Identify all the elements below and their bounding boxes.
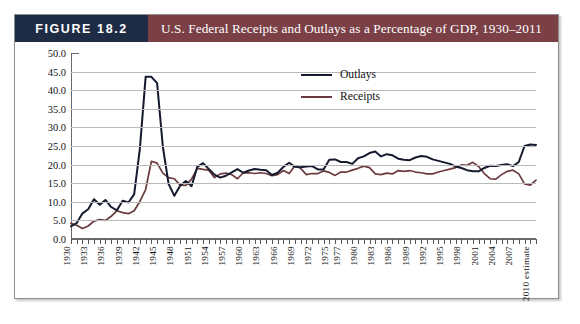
y-axis-label: 50.0	[48, 48, 66, 59]
x-axis-tick	[381, 239, 382, 244]
y-axis-label: 25.0	[48, 141, 66, 152]
x-axis-label: 2004	[487, 246, 497, 266]
x-axis-label: 1998	[452, 246, 462, 266]
figure-container: FIGURE 18.2 U.S. Federal Receipts and Ou…	[14, 14, 559, 299]
x-axis-tick	[421, 239, 422, 244]
x-axis-tick	[358, 239, 359, 244]
x-axis-tick	[134, 239, 135, 244]
x-axis-tick	[255, 239, 256, 244]
x-axis-tick	[410, 239, 411, 244]
x-axis-label: 1969	[286, 246, 296, 266]
x-axis-tick	[467, 239, 468, 244]
x-axis-tick	[370, 239, 371, 244]
x-axis-label: 2001	[470, 246, 480, 266]
x-axis-tick	[375, 239, 376, 244]
x-axis-label: 1948	[165, 246, 175, 266]
x-axis-tick	[237, 239, 238, 244]
x-axis-tick	[283, 239, 284, 244]
x-axis-tick	[507, 239, 508, 244]
y-axis-label: 40.0	[48, 85, 66, 96]
x-axis-tick	[329, 239, 330, 244]
gridline	[71, 220, 536, 221]
x-axis-tick	[146, 239, 147, 244]
y-axis-label: 0.0	[53, 234, 66, 245]
legend-item-outlays: Outlays	[301, 68, 380, 81]
x-axis-label: 1963	[251, 246, 261, 266]
x-axis-tick	[392, 239, 393, 244]
x-axis-label: 1933	[79, 246, 89, 266]
x-axis-tick	[301, 239, 302, 244]
x-axis-tick	[479, 239, 480, 244]
x-axis-label: 1975	[320, 246, 330, 266]
series-line-receipts	[71, 161, 536, 228]
x-axis-tick	[341, 239, 342, 244]
x-axis-tick	[157, 239, 158, 244]
figure-header: FIGURE 18.2 U.S. Federal Receipts and Ou…	[15, 15, 558, 42]
x-axis-tick	[398, 239, 399, 244]
x-axis-tick	[461, 239, 462, 244]
x-axis-tick	[186, 239, 187, 244]
x-axis-label: 1960	[234, 246, 244, 266]
x-axis-tick	[243, 239, 244, 244]
x-axis-tick	[444, 239, 445, 244]
x-axis-tick	[473, 239, 474, 244]
y-axis-label: 15.0	[48, 178, 66, 189]
x-axis-tick	[232, 239, 233, 244]
x-axis-tick	[496, 239, 497, 244]
x-axis-label: 2007	[504, 246, 514, 266]
x-axis-label: 1942	[131, 246, 141, 266]
x-axis-tick	[352, 239, 353, 244]
x-axis-tick	[192, 239, 193, 244]
x-axis-tick	[215, 239, 216, 244]
x-axis-tick	[335, 239, 336, 244]
x-axis-tick	[347, 239, 348, 244]
x-axis-label: 2010 estimate	[521, 246, 531, 301]
x-axis-tick	[519, 239, 520, 244]
x-axis-tick	[502, 239, 503, 244]
x-axis-tick	[203, 239, 204, 244]
legend-swatch-receipts	[301, 96, 332, 98]
x-axis-tick	[295, 239, 296, 244]
x-axis-tick	[433, 239, 434, 244]
x-axis-tick	[513, 239, 514, 244]
x-axis-label: 1957	[217, 246, 227, 266]
x-axis-tick	[105, 239, 106, 244]
x-axis-label: 1930	[62, 246, 72, 266]
gridline	[71, 53, 79, 54]
x-axis-tick	[306, 239, 307, 244]
x-axis-label: 1966	[269, 246, 279, 266]
x-axis-tick	[128, 239, 129, 244]
x-axis-label: 1954	[200, 246, 210, 266]
x-axis-label: 1977	[332, 246, 342, 266]
x-axis-tick	[163, 239, 164, 244]
x-axis-tick	[77, 239, 78, 244]
gridline	[71, 183, 536, 184]
x-axis-tick	[100, 239, 101, 244]
gridline	[71, 202, 536, 203]
y-axis-label: 30.0	[48, 122, 66, 133]
x-axis-label: 1936	[96, 246, 106, 266]
gridline	[71, 146, 536, 147]
x-axis-tick	[438, 239, 439, 244]
y-axis-label: 35.0	[48, 103, 66, 114]
x-axis-tick	[456, 239, 457, 244]
legend-label-receipts: Receipts	[340, 90, 380, 103]
gridline	[71, 165, 536, 166]
x-axis-tick	[427, 239, 428, 244]
x-axis-tick	[260, 239, 261, 244]
x-axis-tick	[117, 239, 118, 244]
x-axis-tick	[169, 239, 170, 244]
y-axis-label: 5.0	[53, 215, 66, 226]
x-axis-label: 1989	[401, 246, 411, 266]
x-axis-tick	[278, 239, 279, 244]
x-axis-tick	[82, 239, 83, 244]
x-axis-tick	[123, 239, 124, 244]
x-axis-label: 1945	[148, 246, 158, 266]
x-axis-tick	[226, 239, 227, 244]
x-axis-tick	[180, 239, 181, 244]
x-axis-label: 1980	[349, 246, 359, 266]
x-axis-label: 1983	[366, 246, 376, 266]
x-axis-tick	[197, 239, 198, 244]
x-axis-label: 1972	[303, 246, 313, 266]
x-axis-label: 1986	[383, 246, 393, 266]
